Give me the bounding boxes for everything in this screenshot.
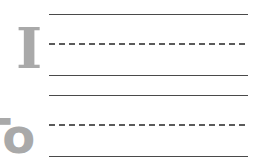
top-guide-line bbox=[49, 95, 248, 96]
midline-dashed bbox=[49, 124, 248, 126]
trace-letter-i: I bbox=[16, 20, 42, 76]
trace-word-to: To bbox=[0, 112, 33, 160]
baseline bbox=[49, 75, 248, 76]
baseline bbox=[49, 156, 248, 157]
top-guide-line bbox=[49, 14, 248, 15]
midline-dashed bbox=[49, 43, 248, 45]
